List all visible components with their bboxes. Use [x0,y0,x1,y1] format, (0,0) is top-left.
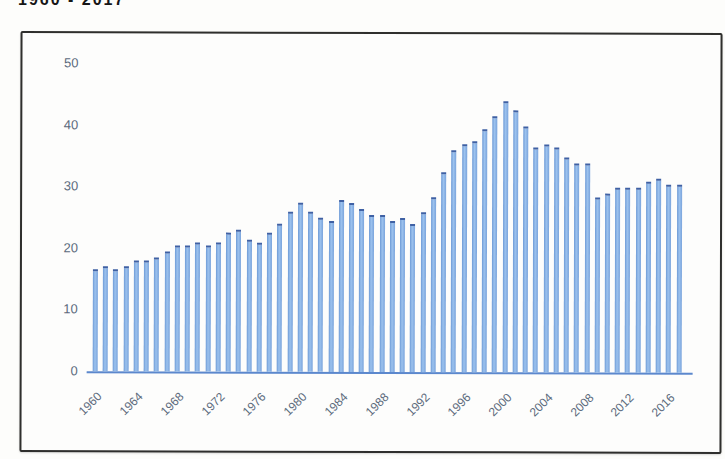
bar-2003 [533,147,539,372]
bar-1980 [297,203,302,372]
cropped-title-text: 1960 - 2017 [18,0,125,8]
bar-1984 [338,200,343,372]
bar-1995 [451,150,457,372]
bar-2001 [512,110,518,372]
scanned-photo-background: 1960 - 2017 0102030405019601964196819721… [0,0,725,459]
bar-2010 [605,194,610,373]
y-axis-tick-label-40: 40 [38,117,78,132]
y-axis-tick-label-10: 10 [38,302,78,317]
bar-1993 [431,197,436,372]
bar-1973 [226,233,231,372]
bar-1972 [216,243,221,372]
bar-2011 [615,188,620,373]
x-axis-tick-label-1972: 1972 [178,390,228,439]
bar-1990 [400,218,405,372]
bar-1987 [369,215,374,372]
bar-1997 [472,141,478,372]
bar-1963 [123,266,128,371]
bar-1978 [277,224,282,372]
x-axis-tick-label-1968: 1968 [137,390,187,439]
bar-1992 [420,212,425,372]
bar-1999 [492,116,498,372]
bar-1988 [379,215,384,372]
bar-2014 [646,182,652,373]
x-axis-tick-label-1964: 1964 [96,389,146,438]
bar-1977 [267,233,272,372]
bar-2012 [625,188,630,373]
bar-1979 [287,212,292,372]
y-axis-tick-label-50: 50 [38,55,78,70]
bar-2004 [543,144,549,372]
bar-2016 [666,185,671,373]
bar-2013 [635,188,640,373]
bar-1970 [195,243,200,372]
bar-2005 [553,147,559,372]
bar-1962 [113,269,118,371]
bar-1994 [441,172,447,372]
plot-area: 0102030405019601964196819721976198019841… [21,33,720,452]
bar-2007 [574,164,580,373]
bar-1986 [359,209,364,372]
bar-2006 [564,158,570,373]
bar-1981 [308,212,313,372]
bar-1975 [246,240,251,372]
bar-1983 [328,221,333,372]
bar-1969 [185,246,190,372]
bar-1996 [461,144,467,372]
x-axis-tick-label-2016: 2016 [628,391,678,440]
x-axis-tick-label-1980: 1980 [260,390,310,439]
bar-2017 [676,185,681,373]
bar-2015 [656,179,662,373]
x-axis-tick-label-1976: 1976 [219,390,269,439]
bar-2008 [584,164,590,373]
bar-1971 [205,246,210,372]
x-axis-tick-label-1984: 1984 [301,390,351,439]
bar-1985 [349,203,354,372]
x-axis-tick-label-1960: 1960 [55,389,105,438]
cropped-title: 1960 - 2017 [18,0,278,8]
bar-1991 [410,224,415,372]
bar-2000 [502,101,508,372]
y-axis-tick-label-0: 0 [38,363,78,378]
bar-1998 [482,129,488,372]
bar-1966 [154,257,159,371]
bar-1982 [318,218,323,372]
y-axis-tick-label-20: 20 [38,240,78,255]
bar-1968 [175,245,180,371]
bar-1989 [390,221,395,372]
y-axis-tick-label-30: 30 [38,178,78,193]
bar-1974 [236,230,241,372]
chart-frame: 0102030405019601964196819721976198019841… [19,31,722,454]
bar-2009 [594,198,599,373]
bar-1964 [134,260,139,371]
bar-1961 [103,266,108,371]
bar-1960 [93,269,98,371]
bar-1976 [256,243,261,372]
bar-1965 [144,260,149,371]
bar-1967 [164,251,169,371]
bar-2002 [523,126,529,372]
